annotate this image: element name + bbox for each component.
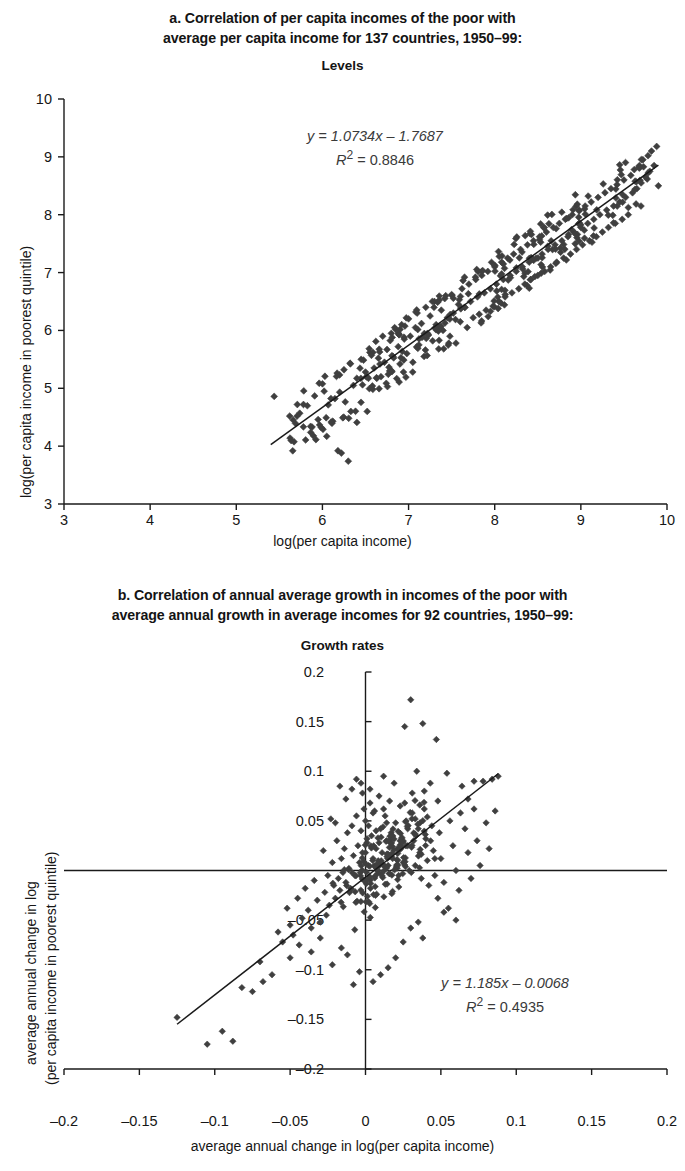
panel-b-plot-area: [0, 0, 685, 1171]
figure-root: a. Correlation of per capita incomes of …: [0, 0, 685, 1171]
panel-b-svg: [0, 0, 685, 1171]
